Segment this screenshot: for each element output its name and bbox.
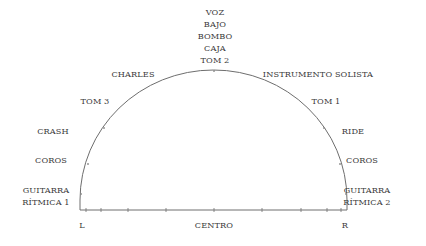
label-bajo: BAJO — [198, 18, 233, 30]
label-coros-right: COROS — [346, 155, 378, 166]
center-instrument-stack: VOZ BAJO BOMBO CAJA TOM 2 — [198, 6, 233, 66]
axis-label-right: R — [342, 220, 348, 231]
label-guitarra-ritmica-1: GUITARRA RÍTMICA 1 — [22, 184, 69, 208]
label-bombo: BOMBO — [198, 30, 233, 42]
label-caja: CAJA — [198, 42, 233, 54]
label-crash: CRASH — [37, 126, 69, 137]
axis-label-left: L — [79, 220, 85, 231]
label-guitarra-ritmica-2-line1: GUITARRA — [343, 184, 390, 196]
label-instrumento-solista: INSTRUMENTO SOLISTA — [263, 69, 373, 80]
label-guitarra-ritmica-2-line2: RÍTMICA 2 — [343, 196, 390, 208]
semicircle-arc — [80, 70, 347, 210]
label-ride: RIDE — [342, 126, 364, 137]
panning-diagram: VOZ BAJO BOMBO CAJA TOM 2 CHARLES TOM 3 … — [0, 0, 426, 246]
label-coros-left: COROS — [35, 155, 67, 166]
axis-label-center: CENTRO — [195, 220, 233, 231]
label-guitarra-ritmica-2: GUITARRA RÍTMICA 2 — [343, 184, 390, 208]
label-voz: VOZ — [198, 6, 233, 18]
label-tom-2: TOM 2 — [198, 54, 233, 66]
label-tom-3: TOM 3 — [81, 96, 110, 107]
label-guitarra-ritmica-1-line1: GUITARRA — [22, 184, 69, 196]
label-guitarra-ritmica-1-line2: RÍTMICA 1 — [22, 196, 69, 208]
label-tom-1: TOM 1 — [312, 96, 341, 107]
arc-position-marks — [80, 70, 347, 195]
label-charles: CHARLES — [111, 69, 154, 80]
